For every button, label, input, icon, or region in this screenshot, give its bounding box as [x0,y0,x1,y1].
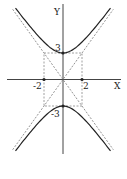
tick-label-x-neg: -2 [33,81,42,91]
tick-label-x-pos: 2 [83,81,89,91]
x-axis-label: X [114,81,121,91]
y-axis-label: Y [53,7,61,17]
point-x-neg-2 [42,78,45,81]
vertex-bottom [61,104,64,107]
tick-label-y-pos: 3 [55,43,61,53]
hyperbola-diagram: Y X -2 2 3 -3 [0,0,127,179]
tick-label-y-neg: -3 [51,109,60,119]
vertex-top [61,51,64,54]
